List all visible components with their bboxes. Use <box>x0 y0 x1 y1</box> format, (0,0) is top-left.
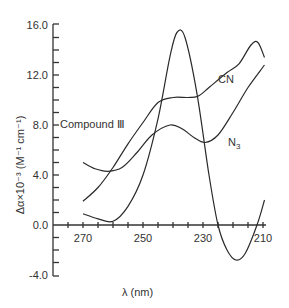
label-cn: CN <box>218 73 234 85</box>
y-tick-label: 16.0 <box>27 19 48 31</box>
x-tick-label: 230 <box>194 232 212 244</box>
x-tick-label: 250 <box>134 232 152 244</box>
y-tick-label: 4.0 <box>33 169 48 181</box>
x-tick-label: 270 <box>74 232 92 244</box>
label-n3: N3 <box>228 136 241 151</box>
y-tick-label: 0.0 <box>33 219 48 231</box>
y-ticks <box>53 38 59 263</box>
x-tick-label: 210 <box>254 232 272 244</box>
label-compound-iii: Compound Ⅲ <box>60 118 125 130</box>
cd-spectrum-chart: 16.0 12.0 8.0 4.0 0.0 -4.0 270 250 230 2… <box>0 0 289 308</box>
y-tick-labels: 16.0 12.0 8.0 4.0 0.0 -4.0 <box>27 19 48 281</box>
y-tick-label: 8.0 <box>33 119 48 131</box>
y-tick-label: 12.0 <box>27 69 48 81</box>
x-tick-labels: 270 250 230 210 <box>74 232 272 244</box>
y-axis-title: Δα×10⁻³ (M⁻¹ cm⁻¹) <box>14 116 26 215</box>
y-tick-label: -4.0 <box>29 269 48 281</box>
x-axis-title: λ (nm) <box>122 286 153 298</box>
